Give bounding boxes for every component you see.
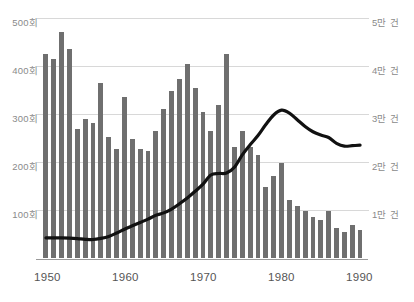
bar [43, 54, 48, 258]
bar [224, 54, 229, 258]
gridline-500 [37, 18, 369, 19]
bar [342, 232, 347, 258]
y-left-tick-100: 100회 [2, 210, 38, 220]
x-tick-1960: 1960 [112, 272, 139, 284]
y-right-tick-2man: 2만 건 [372, 162, 414, 172]
y-right-tick-5man: 5만 건 [372, 18, 414, 28]
x-tick-1990: 1990 [346, 272, 373, 284]
bar [303, 211, 308, 258]
y-left-tick-300: 300회 [2, 114, 38, 124]
bar [263, 187, 268, 258]
y-right-tick-4man: 4만 건 [372, 66, 414, 76]
bar [358, 230, 363, 258]
bar [177, 79, 182, 258]
bar [326, 211, 331, 258]
bar [91, 123, 96, 258]
bar [114, 149, 119, 258]
bar [169, 91, 174, 258]
bar [334, 228, 339, 258]
y-left-tick-500: 500회 [2, 18, 38, 28]
bar [201, 112, 206, 258]
y-left-tick-200: 200회 [2, 162, 38, 172]
bar [256, 155, 261, 258]
bar [75, 129, 80, 258]
plot-area [42, 18, 364, 258]
bar [232, 147, 237, 258]
bar [106, 137, 111, 258]
bar [130, 139, 135, 258]
bar [248, 147, 253, 258]
chart-container: 500회 400회 300회 200회 100회 5만 건 4만 건 3만 건 … [0, 0, 414, 302]
bar [146, 151, 151, 258]
bar [193, 88, 198, 258]
bar [98, 83, 103, 258]
bar [216, 105, 221, 258]
x-tick-1980: 1980 [268, 272, 295, 284]
bar [59, 32, 64, 258]
bar [318, 220, 323, 258]
bar [138, 149, 143, 258]
bar [287, 200, 292, 258]
bar [185, 64, 190, 258]
bar [67, 49, 72, 258]
bar [271, 176, 276, 258]
bar [279, 163, 284, 258]
y-right-tick-3man: 3만 건 [372, 114, 414, 124]
x-axis-baseline [36, 259, 368, 261]
bar [153, 131, 158, 258]
bar [83, 119, 88, 258]
bar [122, 97, 127, 258]
bar [51, 59, 56, 258]
bar [311, 217, 316, 258]
bar [350, 225, 355, 258]
x-tick-1970: 1970 [190, 272, 217, 284]
y-left-tick-400: 400회 [2, 66, 38, 76]
bar [240, 131, 245, 258]
bar [161, 109, 166, 258]
x-tick-1950: 1950 [34, 272, 61, 284]
gridline-400 [37, 66, 369, 67]
bar [208, 131, 213, 258]
bar [295, 206, 300, 258]
y-right-tick-1man: 1만 건 [372, 210, 414, 220]
